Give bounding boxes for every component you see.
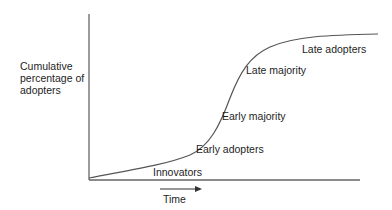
stage-label-innovators: Innovators [153,166,202,178]
y-axis-label: Cumulative percentage of adopters [20,60,90,96]
stage-label-late-majority: Late majority [246,64,306,76]
time-arrow-icon [160,186,202,192]
y-axis-label-line-3: adopters [20,84,90,96]
x-axis-label: Time [163,193,186,205]
stage-label-early-majority: Early majority [222,110,286,122]
y-axis-label-line-2: percentage of [20,72,90,84]
adoption-s-curve [89,34,378,178]
diagram-canvas [0,0,392,210]
stage-label-early-adopters: Early adopters [196,143,264,155]
stage-label-late-adopters: Late adopters [302,43,366,55]
y-axis-label-line-1: Cumulative [20,60,90,72]
